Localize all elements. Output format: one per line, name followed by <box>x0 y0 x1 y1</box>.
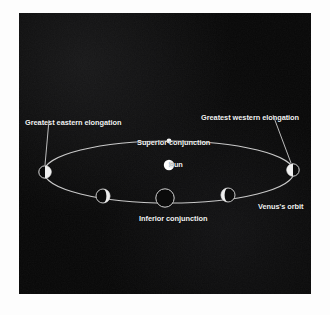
venus-inferior-conjunction <box>156 189 174 207</box>
venus-crescent-right <box>221 188 235 202</box>
venus-crescent-left <box>96 189 110 203</box>
sky-panel: Greatest eastern elongation Greatest wes… <box>19 13 311 294</box>
label-venus-orbit: Venus's orbit <box>258 203 303 210</box>
orbit-scene <box>19 13 311 294</box>
label-inferior-conjunction: Inferior conjunction <box>139 215 207 222</box>
label-superior-conjunction: Superior conjunction <box>137 139 210 146</box>
label-greatest-eastern-elongation: Greatest eastern elongation <box>25 119 121 126</box>
label-greatest-western-elongation: Greatest western elongation <box>201 114 299 121</box>
label-sun: Sun <box>169 161 183 168</box>
venus-greatest-eastern-elongation <box>39 166 51 178</box>
venus-greatest-western-elongation <box>287 164 299 176</box>
venus-orbit-diagram: Greatest eastern elongation Greatest wes… <box>0 0 330 315</box>
